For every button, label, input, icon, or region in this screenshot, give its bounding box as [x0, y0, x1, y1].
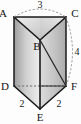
measurement-label-right: 4	[75, 46, 80, 57]
vertex-label-E: E	[37, 111, 44, 123]
measurement-label-bottom-left: 2	[20, 98, 25, 109]
dimension-arc-top	[14, 9, 66, 17]
measurement-label-top: 3	[38, 0, 43, 10]
dimension-arc-right	[66, 17, 73, 86]
measurement-label-bottom-right: 2	[57, 98, 62, 109]
prism-diagram: A B C D E F 3 4 2 2	[0, 0, 81, 124]
geometry-figure-container: A B C D E F 3 4 2 2	[0, 0, 81, 124]
vertex-label-D: D	[1, 80, 9, 92]
vertex-label-F: F	[71, 80, 77, 92]
vertex-label-C: C	[71, 7, 78, 19]
vertex-label-A: A	[0, 7, 7, 19]
vertex-label-B: B	[33, 40, 40, 52]
